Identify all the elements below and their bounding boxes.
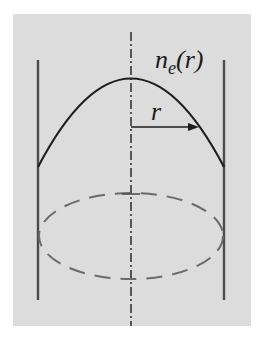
profile-label: ne(r) xyxy=(155,45,203,78)
radius-label: r xyxy=(151,97,162,126)
plasma-density-profile-diagram: ne(r) r xyxy=(0,0,260,340)
